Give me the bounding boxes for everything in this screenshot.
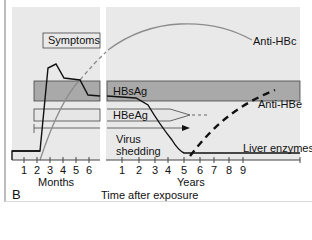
year-tick-5: 5 xyxy=(181,165,187,176)
shedding-label: shedding xyxy=(116,146,161,157)
year-tick-9: 9 xyxy=(240,165,246,176)
month-tick-3: 3 xyxy=(47,165,53,176)
year-tick-2: 2 xyxy=(136,165,142,176)
month-tick-6: 6 xyxy=(86,165,92,176)
liver-enzymes-label: Liver enzymes xyxy=(243,143,312,154)
years-axis-label: Years xyxy=(177,177,205,188)
year-tick-4: 4 xyxy=(165,165,171,176)
x-axis-title: Time after exposure xyxy=(101,190,198,201)
month-tick-1: 1 xyxy=(21,165,27,176)
months-axis-label: Months xyxy=(38,177,74,188)
month-tick-5: 5 xyxy=(73,165,79,176)
year-tick-6: 6 xyxy=(197,165,203,176)
year-tick-3: 3 xyxy=(152,165,158,176)
hbsag-label: HBsAg xyxy=(113,86,147,97)
anti-hbe-label: Anti-HBe xyxy=(258,99,302,110)
year-tick-8: 8 xyxy=(226,165,232,176)
year-tick-7: 7 xyxy=(211,165,217,176)
anti-hbc-label: Anti-HBc xyxy=(253,36,296,47)
hbeag-label: HBeAg xyxy=(113,110,148,121)
year-tick-1: 1 xyxy=(119,165,125,176)
virus-label: Virus xyxy=(116,134,141,145)
panel-letter: B xyxy=(12,188,21,201)
month-tick-4: 4 xyxy=(60,165,66,176)
symptoms-label: Symptoms xyxy=(48,35,100,46)
month-tick-2: 2 xyxy=(34,165,40,176)
